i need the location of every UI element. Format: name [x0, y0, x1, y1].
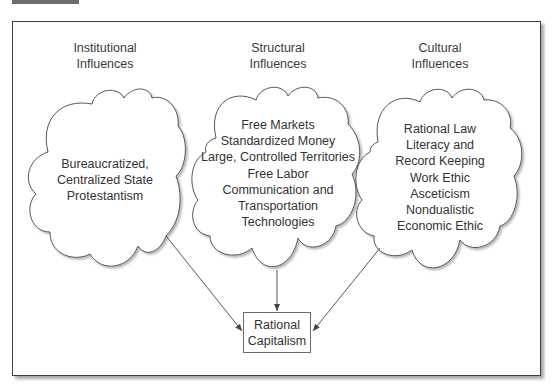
list-item: Asceticism: [380, 186, 500, 202]
list-item: Nondualistic: [380, 202, 500, 218]
list-item: Economic Ethic: [380, 218, 500, 234]
list-item: Protestantism: [45, 188, 165, 204]
list-item: Communication and: [198, 182, 358, 198]
cultural-items: Rational Law Literacy and Record Keeping…: [380, 121, 500, 234]
list-item: Standardized Money: [198, 133, 358, 149]
header-line: Influences: [55, 56, 155, 72]
header-cultural: Cultural Influences: [390, 40, 490, 72]
header-structural: Structural Influences: [228, 40, 328, 72]
list-item: Rational Law: [380, 121, 500, 137]
list-item: Large, Controlled Territories: [198, 149, 358, 165]
list-item: Record Keeping: [380, 153, 500, 169]
header-line: Influences: [228, 56, 328, 72]
list-item: Transportation: [198, 198, 358, 214]
outcome-box-rational-capitalism: Rational Capitalism: [243, 312, 311, 353]
header-institutional: Institutional Influences: [55, 40, 155, 72]
header-line: Institutional: [55, 40, 155, 56]
outcome-line: Capitalism: [244, 333, 310, 349]
header-line: Cultural: [390, 40, 490, 56]
list-item: Centralized State: [45, 172, 165, 188]
list-item: Work Ethic: [380, 170, 500, 186]
list-item: Bureaucratized,: [45, 156, 165, 172]
list-item: Free Markets: [198, 117, 358, 133]
institutional-items: Bureaucratized, Centralized State Protes…: [45, 156, 165, 205]
structural-items: Free Markets Standardized Money Large, C…: [198, 117, 358, 230]
header-line: Structural: [228, 40, 328, 56]
list-item: Literacy and: [380, 137, 500, 153]
list-item: Free Labor: [198, 166, 358, 182]
header-line: Influences: [390, 56, 490, 72]
list-item: Technologies: [198, 214, 358, 230]
arrow-cultural-to-capitalism: [313, 248, 380, 331]
outcome-line: Rational: [244, 317, 310, 333]
